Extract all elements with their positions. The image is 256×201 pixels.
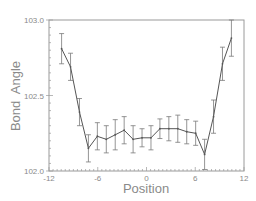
x-tick-label: 12 bbox=[240, 174, 249, 183]
data-point bbox=[213, 116, 215, 118]
y-tick-label: 102.5 bbox=[24, 92, 45, 101]
data-point bbox=[222, 63, 224, 65]
bond-angle-chart: 102.0102.5103.0 -12-60612 Position Bond … bbox=[0, 0, 256, 201]
plot-frame bbox=[49, 20, 244, 171]
data-point bbox=[105, 138, 107, 140]
x-tick-label: -12 bbox=[43, 174, 55, 183]
data-point bbox=[159, 128, 161, 130]
data-point bbox=[79, 111, 81, 113]
y-tick-label: 103.0 bbox=[24, 16, 45, 25]
data-point bbox=[195, 132, 197, 134]
x-axis-title: Position bbox=[123, 181, 169, 196]
data-point bbox=[186, 131, 188, 133]
data-series-line bbox=[62, 38, 232, 154]
data-point bbox=[204, 153, 206, 155]
error-bars bbox=[59, 20, 234, 169]
y-axis-tick-labels: 102.0102.5103.0 bbox=[24, 16, 45, 176]
data-point bbox=[96, 135, 98, 137]
y-axis-title: Bond Angle bbox=[8, 61, 23, 131]
data-point bbox=[70, 66, 72, 68]
data-point bbox=[231, 37, 233, 39]
data-point bbox=[114, 134, 116, 136]
y-tick-label: 102.0 bbox=[24, 167, 45, 176]
data-point bbox=[168, 128, 170, 130]
data-point bbox=[132, 138, 134, 140]
data-point bbox=[150, 137, 152, 139]
data-point bbox=[61, 48, 63, 50]
data-point bbox=[141, 137, 143, 139]
x-tick-label: -6 bbox=[94, 174, 102, 183]
x-tick-label: 6 bbox=[193, 174, 198, 183]
data-point bbox=[123, 129, 125, 131]
data-point bbox=[177, 128, 179, 130]
data-point bbox=[88, 147, 90, 149]
